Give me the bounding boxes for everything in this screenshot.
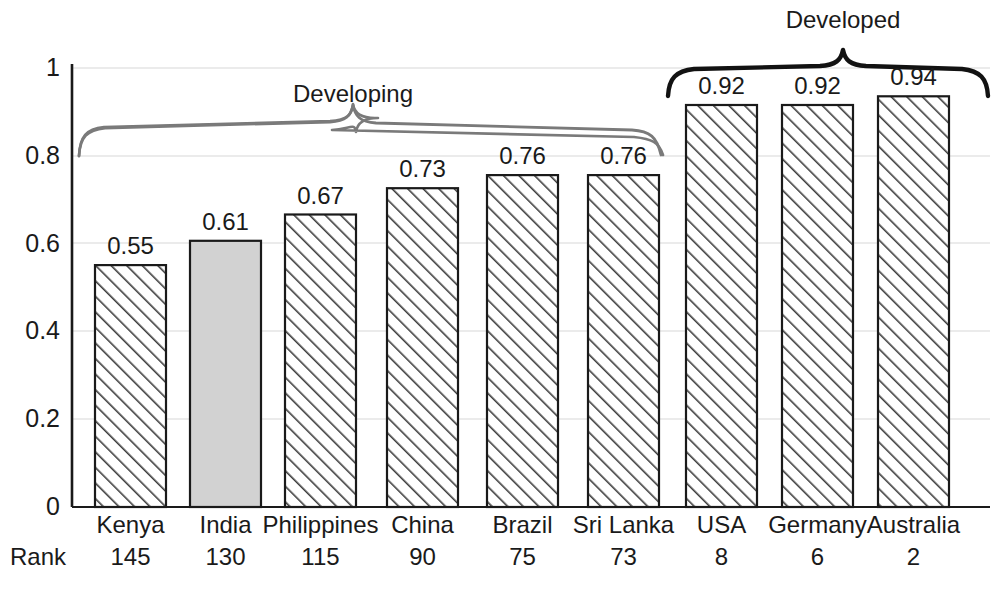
- value-label-kenya: 0.55: [80, 234, 181, 258]
- y-tick-1: 1: [8, 55, 60, 80]
- bar-india: [190, 241, 261, 507]
- value-label-india: 0.61: [175, 210, 276, 234]
- annotation-developed: Developed: [753, 8, 933, 32]
- bar-sri-lanka: [588, 175, 659, 507]
- bar-germany: [782, 105, 853, 507]
- value-label-brazil: 0.76: [472, 144, 573, 168]
- bar-brazil: [487, 175, 558, 507]
- y-tick-0-2: 0.2: [8, 406, 60, 431]
- value-label-germany: 0.92: [767, 74, 868, 98]
- y-tick-0: 0: [8, 494, 60, 519]
- bar-kenya: [95, 265, 166, 507]
- bar-usa: [686, 105, 757, 507]
- value-label-usa: 0.92: [671, 74, 772, 98]
- annotation-developing: Developing: [263, 82, 443, 106]
- value-label-china: 0.73: [372, 157, 473, 181]
- rank-value-australia: 2: [843, 545, 984, 569]
- bar-philippines: [285, 215, 356, 508]
- y-tick-0-8: 0.8: [8, 143, 60, 168]
- y-tick-0-6: 0.6: [8, 231, 60, 256]
- value-label-philippines: 0.67: [270, 184, 371, 208]
- value-label-australia: 0.94: [863, 65, 964, 89]
- value-label-sri-lanka: 0.76: [573, 144, 674, 168]
- bar-chart-figure: 1 0.8 0.6 0.4 0.2 0 0.55 0.61 0.67 0.73 …: [0, 0, 1001, 591]
- y-tick-0-4: 0.4: [8, 318, 60, 343]
- bar-australia: [878, 96, 949, 507]
- bar-china: [387, 188, 458, 507]
- category-label-australia: Australia: [843, 513, 984, 537]
